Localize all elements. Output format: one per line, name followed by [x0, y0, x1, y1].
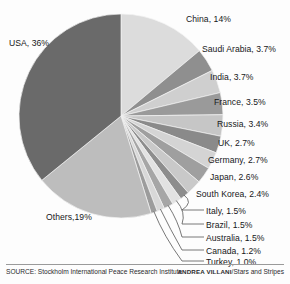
slice-label-germany: Germany, 2.7%: [208, 156, 268, 165]
slice-label-others: Others,19%: [46, 213, 92, 222]
credit-text: ANDREA VILLANI/Stars and Stripes: [177, 268, 284, 275]
slice-label-usa: USA, 36%: [9, 39, 49, 48]
slice-label-russia: Russia, 3.4%: [217, 120, 268, 129]
slice-label-france: France, 3.5%: [214, 98, 266, 107]
slice-label-china: China, 14%: [186, 15, 231, 24]
slice-label-australia: Australia, 1.5%: [206, 234, 265, 243]
slice-label-canada: Canada, 1.2%: [206, 247, 261, 256]
slice-label-south-korea: South Korea, 2.4%: [196, 190, 269, 199]
slice-label-india: India, 3.7%: [210, 73, 254, 82]
chart-footer: SOURCE: Stockholm International Peace Re…: [6, 268, 284, 280]
slice-label-saudi-arabia: Saudi Arabia, 3.7%: [202, 45, 276, 54]
slice-label-brazil: Brazil, 1.5%: [206, 221, 252, 230]
slice-label-japan: Japan, 2.6%: [210, 173, 258, 182]
pie-chart: China, 14% Saudi Arabia, 3.7% India, 3.7…: [0, 0, 290, 284]
footer-divider: [6, 264, 284, 265]
leader-line-turkey: [154, 212, 204, 262]
leader-line-canada: [160, 209, 204, 250]
slice-label-turkey: Turkey, 1.0%: [206, 258, 256, 267]
credit-publication: /Stars and Stripes: [232, 268, 284, 275]
source-text: SOURCE: Stockholm International Peace Re…: [6, 268, 182, 275]
slice-label-uk: UK, 2.7%: [218, 139, 255, 148]
slice-label-italy: Italy, 1.5%: [206, 207, 246, 216]
leader-line-brazil: [176, 201, 204, 224]
credit-author: ANDREA VILLANI: [177, 268, 231, 275]
pie-slice-group: [19, 14, 223, 218]
